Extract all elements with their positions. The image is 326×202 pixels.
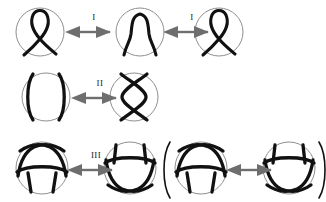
knot-diagram-svg [0,0,326,202]
diagram-triple-a [16,142,68,194]
open-paren-icon [164,142,170,198]
row-3-group [16,142,325,198]
diagram-triple-d [263,142,315,194]
knot-strand-leg-left [28,173,31,192]
reidemeister-moves-figure: I I II III [0,0,326,202]
row-1-group [16,8,243,56]
diagram-parallel-strands [22,73,70,121]
knot-strand-b [122,74,147,120]
diagram-arc-middle [116,8,164,56]
knot-strand-left [28,74,33,120]
diagram-kink-left [16,8,64,56]
move-label-1a: I [84,13,104,22]
diagram-crossed-strands [110,73,158,121]
knot-strand-arc [124,14,156,55]
knot-strand-horizontal [176,167,226,172]
knot-strand-loop [24,11,56,56]
knot-strand-a [121,74,146,120]
knot-strand-leg-left [187,173,190,192]
move-label-1b: I [182,13,202,22]
boundary-circle [110,73,158,121]
diagram-triple-c [175,142,227,194]
knot-strand-right [59,74,64,120]
diagram-triple-b [104,142,156,194]
boundary-circle [16,8,64,56]
knot-strand-leg-right [53,173,56,192]
close-paren-icon [319,142,325,198]
knot-strand-horizontal [17,167,67,172]
move-label-2a: II [90,79,110,88]
knot-strand-leg-right [212,173,215,192]
move-label-3a: III [86,151,106,160]
